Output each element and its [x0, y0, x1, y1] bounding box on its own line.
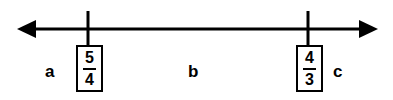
fraction-stack: 4 3 — [303, 50, 316, 88]
fraction-bar — [303, 68, 316, 70]
arrow-left-icon — [17, 20, 36, 38]
fraction-box-five-fourths: 5 4 — [76, 45, 103, 92]
fraction-numerator: 4 — [305, 50, 314, 66]
region-label-c: c — [333, 63, 342, 80]
fraction-box-four-thirds: 4 3 — [296, 45, 323, 92]
number-line-graphic — [0, 0, 393, 100]
fraction-stack: 5 4 — [83, 50, 96, 88]
arrow-right-icon — [359, 20, 378, 38]
fraction-numerator: 5 — [85, 50, 94, 66]
fraction-denominator: 4 — [85, 72, 94, 88]
fraction-denominator: 3 — [305, 72, 314, 88]
fraction-bar — [83, 68, 96, 70]
region-label-a: a — [45, 63, 54, 80]
region-label-b: b — [188, 63, 198, 80]
number-line-figure: 5 4 4 3 a b c — [0, 0, 393, 100]
